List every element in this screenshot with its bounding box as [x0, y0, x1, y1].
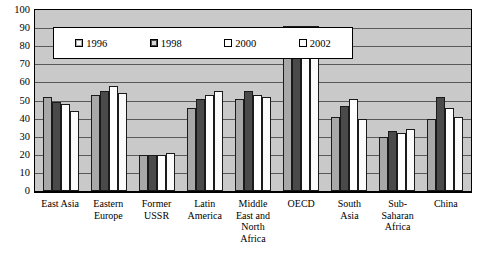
- y-tick-label: 70: [20, 59, 31, 69]
- bar: [262, 97, 271, 191]
- x-axis-labels: East AsiaEasternEuropeFormerUSSRLatinAme…: [34, 198, 472, 258]
- y-tick-label: 60: [20, 77, 31, 87]
- x-axis-label-line: Saharan: [374, 210, 422, 222]
- legend-swatch-icon: [299, 39, 307, 47]
- x-axis-label-line: Africa: [229, 233, 277, 245]
- y-axis: 1009080706050403020100: [0, 0, 34, 196]
- bar: [244, 91, 253, 191]
- bar: [205, 95, 214, 191]
- bar-group: [421, 10, 469, 191]
- y-tick-label: 20: [20, 150, 31, 160]
- legend-item: 1996: [54, 38, 129, 49]
- x-axis-label-line: South: [325, 198, 373, 210]
- x-axis-label: SouthAsia: [325, 198, 373, 258]
- bar: [340, 106, 349, 191]
- bar: [436, 97, 445, 191]
- y-tick-label: 80: [20, 41, 31, 51]
- legend-swatch-icon: [224, 39, 232, 47]
- x-axis-label: EasternEurope: [84, 198, 132, 258]
- bar: [118, 93, 127, 191]
- legend-swatch-icon: [150, 39, 158, 47]
- bar: [52, 102, 61, 191]
- x-axis-line: [34, 191, 472, 193]
- x-axis-label-line: Africa: [374, 221, 422, 233]
- bar: [406, 129, 415, 191]
- legend-label: 1996: [86, 38, 107, 49]
- x-axis-label-line: East Asia: [36, 198, 84, 210]
- y-tick-label: 50: [20, 96, 31, 106]
- legend-item: 2002: [278, 38, 353, 49]
- x-axis-label: LatinAmerica: [181, 198, 229, 258]
- legend-item: 2000: [203, 38, 278, 49]
- x-axis-label-line: Middle: [229, 198, 277, 210]
- bar: [235, 99, 244, 191]
- bar: [253, 95, 262, 191]
- bar: [70, 111, 79, 191]
- x-axis-label-line: Former: [132, 198, 180, 210]
- bar: [454, 117, 463, 191]
- x-axis-label-line: America: [181, 210, 229, 222]
- x-axis-label-line: North: [229, 221, 277, 233]
- y-tick-label: 100: [14, 5, 30, 15]
- bar: [157, 155, 166, 191]
- bar: [196, 99, 205, 191]
- x-axis-label-line: Europe: [84, 210, 132, 222]
- bar: [139, 155, 148, 191]
- bar: [331, 117, 340, 191]
- bar: [61, 104, 70, 191]
- bar: [166, 153, 175, 191]
- x-axis-label-line: Latin: [181, 198, 229, 210]
- bar: [358, 119, 367, 191]
- bar: [397, 133, 406, 191]
- bar: [148, 155, 157, 191]
- bar-chart: 1009080706050403020100 1996199820002002 …: [0, 0, 478, 260]
- x-axis-label-line: China: [422, 198, 470, 210]
- x-axis-label-line: Asia: [325, 210, 373, 222]
- x-axis-label-line: OECD: [277, 198, 325, 210]
- x-axis-label: Sub-SaharanAfrica: [374, 198, 422, 258]
- x-axis-label: OECD: [277, 198, 325, 258]
- legend-label: 2002: [310, 38, 331, 49]
- bar: [388, 131, 397, 191]
- chart-legend: 1996199820002002: [53, 27, 353, 59]
- legend-swatch-icon: [75, 39, 83, 47]
- bar: [214, 91, 223, 191]
- bar: [100, 91, 109, 191]
- y-tick-label: 0: [25, 186, 30, 196]
- x-axis-label-line: East and: [229, 210, 277, 222]
- x-axis-label-line: Sub-: [374, 198, 422, 210]
- y-tick-label: 40: [20, 114, 31, 124]
- bar: [91, 95, 100, 191]
- bar: [379, 137, 388, 191]
- x-axis-label-line: USSR: [132, 210, 180, 222]
- bar: [445, 108, 454, 191]
- bar: [43, 97, 52, 191]
- y-tick-label: 30: [20, 132, 31, 142]
- y-tick-label: 10: [20, 168, 31, 178]
- x-axis-label: MiddleEast andNorthAfrica: [229, 198, 277, 258]
- legend-item: 1998: [129, 38, 204, 49]
- legend-label: 1998: [161, 38, 182, 49]
- y-tick-label: 90: [20, 23, 31, 33]
- bar: [349, 99, 358, 191]
- x-axis-label: China: [422, 198, 470, 258]
- x-axis-label: FormerUSSR: [132, 198, 180, 258]
- legend-label: 2000: [235, 38, 256, 49]
- bar: [427, 119, 436, 191]
- bar: [187, 108, 196, 191]
- x-axis-label-line: Eastern: [84, 198, 132, 210]
- x-axis-label: East Asia: [36, 198, 84, 258]
- bar: [109, 86, 118, 191]
- bar-group: [373, 10, 421, 191]
